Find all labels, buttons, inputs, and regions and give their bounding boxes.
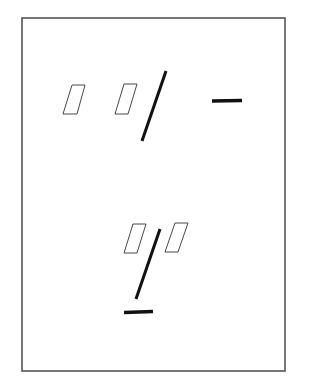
parallelogram-3 bbox=[124, 224, 146, 253]
diagram-canvas bbox=[0, 0, 310, 384]
slanted-bar bbox=[142, 71, 166, 141]
horizontal-bar bbox=[124, 312, 153, 313]
slanted-bar bbox=[136, 229, 160, 299]
parallelogram-2 bbox=[115, 84, 137, 114]
top-group bbox=[63, 71, 242, 141]
parallelogram-1 bbox=[63, 85, 85, 114]
bottom-group bbox=[124, 223, 188, 313]
figure-groups bbox=[63, 71, 242, 313]
horizontal-bar bbox=[212, 101, 242, 102]
parallelogram-4 bbox=[165, 223, 188, 252]
frame-border bbox=[22, 18, 285, 371]
